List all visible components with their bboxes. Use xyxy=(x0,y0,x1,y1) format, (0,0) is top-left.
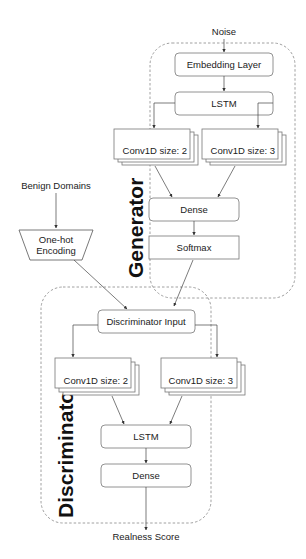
one-hot-label-line2: Encoding xyxy=(36,245,76,256)
edge-conv2-disclstm xyxy=(112,396,124,424)
edge-onehot-discinput xyxy=(74,260,127,309)
benign-domains-label: Benign Domains xyxy=(21,180,91,191)
one-hot-encoding-node: One-hot Encoding xyxy=(19,230,93,260)
disc-conv2-label: Conv1D size: 2 xyxy=(64,375,128,386)
disc-conv3-label: Conv1D size: 3 xyxy=(169,375,233,386)
generator-title: Generator xyxy=(124,178,147,278)
gen-dense-label: Dense xyxy=(180,204,207,215)
gen-conv3-label: Conv1D size: 3 xyxy=(211,145,275,156)
disc-input-node: Discriminator Input xyxy=(98,310,195,333)
gen-dense-node: Dense xyxy=(149,198,239,221)
gen-softmax-label: Softmax xyxy=(177,242,212,253)
discriminator-title: Discriminator xyxy=(54,383,77,518)
disc-conv2-node: Conv1D size: 2 xyxy=(55,358,139,395)
gen-embedding-label: Embedding Layer xyxy=(187,59,261,70)
disc-lstm-node: LSTM xyxy=(101,425,191,448)
gen-softmax-node: Softmax xyxy=(149,236,239,259)
edge-discinput-conv3 xyxy=(195,325,217,357)
gen-conv2-node: Conv1D size: 2 xyxy=(114,129,198,165)
edge-lstm-conv2 xyxy=(154,103,175,128)
disc-dense-label: Dense xyxy=(132,470,159,481)
edge-conv3-dense xyxy=(218,166,235,197)
gen-conv2-label: Conv1D size: 2 xyxy=(123,145,187,156)
edge-softmax-discinput xyxy=(174,260,193,306)
gen-lstm-label: LSTM xyxy=(211,98,236,109)
disc-input-label: Discriminator Input xyxy=(106,316,186,327)
edge-conv2-dense xyxy=(155,166,172,197)
one-hot-label-line1: One-hot xyxy=(39,234,74,245)
disc-conv3-node: Conv1D size: 3 xyxy=(161,358,245,395)
realness-score-label: Realness Score xyxy=(112,531,179,542)
noise-label: Noise xyxy=(212,26,236,37)
edge-conv3-disclstm xyxy=(170,396,182,424)
gen-embedding-node: Embedding Layer xyxy=(175,53,273,76)
gen-conv3-node: Conv1D size: 3 xyxy=(202,129,286,165)
generator-group xyxy=(150,43,295,298)
edge-discinput-conv2 xyxy=(73,325,98,357)
gan-architecture-diagram: Generator Discriminator Noise Embedding … xyxy=(0,0,306,559)
disc-lstm-label: LSTM xyxy=(133,431,158,442)
disc-dense-node: Dense xyxy=(101,464,191,487)
